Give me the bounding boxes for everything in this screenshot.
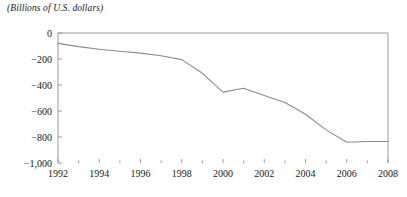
y-tick-label: −200: [6, 54, 52, 65]
axis-frame: [58, 33, 388, 163]
x-tick-label: 2004: [286, 168, 326, 179]
y-tick-marks: [58, 33, 62, 163]
x-tick-label: 1998: [162, 168, 202, 179]
data-series-line: [58, 43, 388, 142]
x-tick-label: 1992: [38, 168, 78, 179]
x-tick-label: 2000: [203, 168, 243, 179]
x-tick-label: 1994: [79, 168, 119, 179]
x-tick-label: 1996: [121, 168, 161, 179]
y-tick-label: −1,000: [6, 158, 52, 169]
y-tick-label: 0: [6, 28, 52, 39]
x-tick-label: 2002: [244, 168, 284, 179]
y-tick-label: −800: [6, 132, 52, 143]
x-tick-label: 2008: [368, 168, 407, 179]
chart-figure: (Billions of U.S. dollars) 0−200−400−600…: [0, 0, 407, 197]
y-tick-label: −400: [6, 80, 52, 91]
plot-frame: [58, 33, 388, 163]
x-tick-label: 2006: [327, 168, 367, 179]
x-tick-marks: [58, 159, 388, 163]
y-tick-label: −600: [6, 106, 52, 117]
